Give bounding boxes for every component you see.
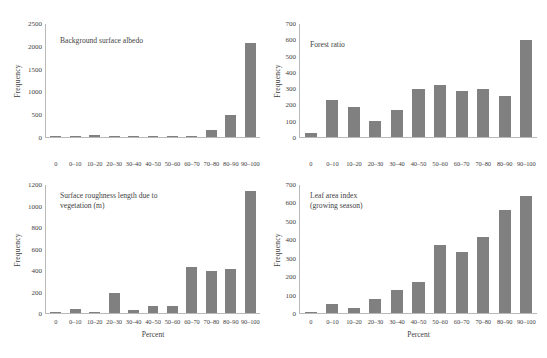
y-tick-label: 200 xyxy=(14,289,42,297)
x-tick-label: 20–30 xyxy=(365,318,387,325)
bar-cell xyxy=(182,185,201,313)
y-tick-label: 500 xyxy=(274,218,296,226)
bar xyxy=(167,306,178,313)
y-tick-label: 100 xyxy=(274,292,296,300)
bar xyxy=(348,107,360,137)
bar-cell xyxy=(494,24,516,137)
bar-cell xyxy=(143,24,162,137)
x-axis-line xyxy=(300,137,537,138)
bar-cell xyxy=(472,24,494,137)
bar xyxy=(326,304,338,314)
y-tick-label: 2500 xyxy=(14,20,42,28)
bar xyxy=(456,252,468,313)
bar xyxy=(477,237,489,313)
y-tick-label: 600 xyxy=(274,36,296,44)
bar xyxy=(109,136,120,137)
y-tick-label: 200 xyxy=(274,273,296,281)
x-tick-label: 40–50 xyxy=(408,318,430,325)
y-tick-label: 400 xyxy=(274,236,296,244)
bar-cell xyxy=(343,24,365,137)
bar-cell xyxy=(515,24,537,137)
y-tick-label: 0 xyxy=(14,310,42,318)
bar xyxy=(167,136,178,137)
bar-cell xyxy=(365,185,387,313)
x-tick-label: 0 xyxy=(46,318,65,325)
x-tick-label: 20–30 xyxy=(104,318,123,325)
bar-cell xyxy=(163,24,182,137)
bar xyxy=(70,309,81,313)
x-axis-line xyxy=(46,313,260,314)
bar xyxy=(499,210,511,313)
y-tick-label: 600 xyxy=(14,246,42,254)
chart-panel-2: Frequency010020030040050060070000–1010–2… xyxy=(274,0,547,179)
bar xyxy=(89,312,100,313)
x-tick-label: 90–100 xyxy=(515,160,537,167)
bar-cell xyxy=(451,24,473,137)
x-tick-label: 70–80 xyxy=(472,160,494,167)
figure-four-histograms: Frequency0500100015002000250000–1010–202… xyxy=(0,0,547,358)
chart-title: Forest ratio xyxy=(310,40,345,50)
bar xyxy=(326,100,338,137)
x-tick-labels: 00–1010–2020–3030–4040–5050–6060–7070–80… xyxy=(46,160,260,167)
y-tick-label: 1500 xyxy=(14,66,42,74)
x-tick-label: 10–20 xyxy=(343,318,365,325)
bar-cell xyxy=(365,24,387,137)
bar-cell xyxy=(408,185,430,313)
bar xyxy=(186,267,197,313)
x-tick-label: 0–10 xyxy=(322,160,344,167)
chart-title: Background surface albedo xyxy=(60,36,143,46)
x-tick-label: 50–60 xyxy=(429,318,451,325)
bar xyxy=(412,89,424,137)
x-tick-label: 10–20 xyxy=(85,160,104,167)
x-tick-label: 60–70 xyxy=(451,318,473,325)
bar xyxy=(369,299,381,313)
bar-cell xyxy=(429,24,451,137)
bar-cell xyxy=(515,185,537,313)
x-tick-label: 20–30 xyxy=(365,160,387,167)
bar-cell xyxy=(202,24,221,137)
y-tick-label: 300 xyxy=(274,85,296,93)
y-tick-label: 600 xyxy=(274,199,296,207)
x-tick-label: 70–80 xyxy=(202,318,221,325)
x-tick-label: 70–80 xyxy=(202,160,221,167)
bar xyxy=(148,136,159,137)
chart-title: Surface roughness length due to vegetati… xyxy=(60,191,157,210)
y-tick-label: 700 xyxy=(274,181,296,189)
x-tick-label: 0–10 xyxy=(65,318,84,325)
bar-cell xyxy=(386,24,408,137)
bar xyxy=(148,306,159,313)
y-tick-label: 0 xyxy=(274,134,296,142)
bar-cell xyxy=(163,185,182,313)
y-tick-label: 800 xyxy=(14,224,42,232)
bar xyxy=(109,293,120,313)
bar xyxy=(305,133,317,137)
bar xyxy=(477,89,489,137)
bar xyxy=(50,312,61,313)
chart-panel-1: Frequency0500100015002000250000–1010–202… xyxy=(0,0,274,179)
bar-cell xyxy=(494,185,516,313)
x-tick-label: 0–10 xyxy=(322,318,344,325)
bar xyxy=(70,136,81,137)
bar-cell xyxy=(429,185,451,313)
x-tick-label: 90–100 xyxy=(515,318,537,325)
bar-cell xyxy=(472,185,494,313)
x-axis-line xyxy=(46,137,260,138)
x-tick-label: 40–50 xyxy=(143,318,162,325)
x-tick-label: 0 xyxy=(46,160,65,167)
x-tick-label: 0 xyxy=(300,318,322,325)
chart-panel-3: Frequency02004006008001000120000–1010–20… xyxy=(0,179,274,358)
x-tick-labels: 00–1010–2020–3030–4040–5050–6060–7070–80… xyxy=(300,160,537,167)
y-tick-label: 1000 xyxy=(14,88,42,96)
bar xyxy=(128,310,139,313)
bar-cell xyxy=(202,185,221,313)
x-tick-label: 30–40 xyxy=(386,318,408,325)
bar xyxy=(245,43,256,137)
y-tick-label: 100 xyxy=(274,118,296,126)
bar xyxy=(499,96,511,137)
bar-cell xyxy=(241,24,260,137)
bar xyxy=(225,115,236,137)
x-tick-label: 80–90 xyxy=(494,318,516,325)
bar xyxy=(456,91,468,137)
y-tick-label: 2000 xyxy=(14,43,42,51)
x-tick-label: 40–50 xyxy=(408,160,430,167)
